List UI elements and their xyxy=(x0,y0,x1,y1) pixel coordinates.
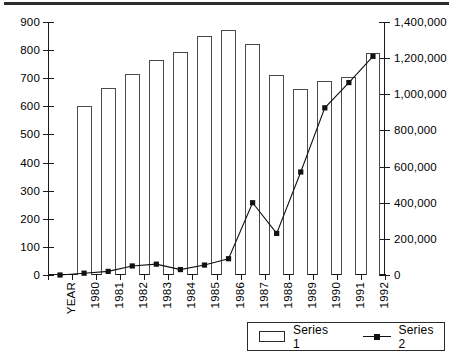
legend-label-series-2: Series 2 xyxy=(398,323,444,351)
line-path xyxy=(60,56,373,275)
legend-item-series-1: Series 1 xyxy=(259,323,339,351)
x-tick-label: 1991 xyxy=(354,282,366,308)
left-tick-label: 800 xyxy=(20,44,40,56)
chart-figure: 0100200300400500600700800900 0200,000400… xyxy=(0,0,453,356)
line-marker xyxy=(130,263,135,268)
line-marker xyxy=(346,80,351,85)
line-marker xyxy=(322,105,327,110)
left-tick-label: 0 xyxy=(33,269,40,281)
left-tick-label: 200 xyxy=(20,213,40,225)
line-marker xyxy=(57,272,62,277)
line-marker xyxy=(202,262,207,267)
right-tick-label: 0 xyxy=(394,269,401,281)
chart-legend: Series 1 Series 2 xyxy=(247,322,445,351)
right-tick-label: 400,000 xyxy=(394,197,437,209)
x-tick-label: 1987 xyxy=(258,282,270,308)
bar-swatch-icon xyxy=(259,331,285,342)
left-tick-label: 500 xyxy=(20,128,40,140)
line-marker xyxy=(298,169,303,174)
left-tick-label: 600 xyxy=(20,100,40,112)
line-series-2 xyxy=(48,22,385,275)
line-marker xyxy=(82,271,87,276)
line-marker xyxy=(370,54,375,59)
line-marker xyxy=(154,262,159,267)
line-marker xyxy=(226,256,231,261)
x-tick-label: 1989 xyxy=(306,282,318,308)
legend-item-series-2: Series 2 xyxy=(363,323,445,351)
line-marker xyxy=(250,200,255,205)
x-tick-label: YEAR xyxy=(65,282,77,314)
left-tick-label: 300 xyxy=(20,185,40,197)
right-tick-label: 600,000 xyxy=(394,161,437,173)
left-tick-label: 400 xyxy=(20,157,40,169)
left-tick-label: 700 xyxy=(20,72,40,84)
x-tick-label: 1985 xyxy=(209,282,221,308)
right-tick-label: 1,400,000 xyxy=(394,16,447,28)
x-tick xyxy=(385,274,386,280)
right-tick-label: 1,000,000 xyxy=(394,88,447,100)
line-marker xyxy=(178,267,183,272)
right-tick-label: 1,200,000 xyxy=(394,52,447,64)
plot-area: 0100200300400500600700800900 0200,000400… xyxy=(48,22,385,275)
x-tick-label: 1992 xyxy=(378,282,390,308)
x-tick-label: 1981 xyxy=(113,282,125,308)
right-tick-label: 800,000 xyxy=(394,124,437,136)
x-tick-label: 1986 xyxy=(234,282,246,308)
left-tick-label: 100 xyxy=(20,241,40,253)
left-tick-label: 900 xyxy=(20,16,40,28)
line-square-swatch-icon xyxy=(363,331,391,342)
x-tick-label: 1983 xyxy=(161,282,173,308)
x-tick-label: 1982 xyxy=(137,282,149,308)
line-marker xyxy=(106,269,111,274)
x-tick-label: 1990 xyxy=(330,282,342,308)
right-tick-label: 200,000 xyxy=(394,233,437,245)
x-tick-label: 1988 xyxy=(282,282,294,308)
line-marker xyxy=(274,231,279,236)
legend-label-series-1: Series 1 xyxy=(293,323,339,351)
x-tick-label: 1984 xyxy=(185,282,197,308)
top-rule-divider xyxy=(4,2,449,5)
x-tick-label: 1980 xyxy=(89,282,101,308)
